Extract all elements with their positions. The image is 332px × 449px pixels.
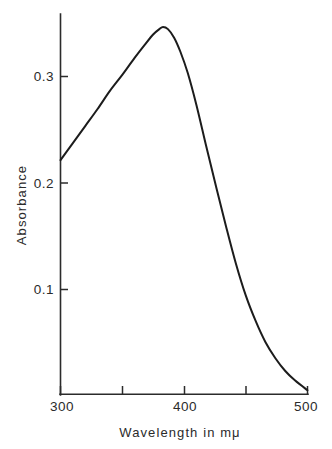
x-tick-label-300: 300	[50, 399, 74, 414]
y-tick-label-0.1: 0.1	[34, 282, 54, 297]
x-tick-label-400: 400	[173, 399, 197, 414]
absorbance-spectrum-figure: 0.3 0.2 0.1 300 400 500 Absorbance Wavel…	[0, 0, 332, 449]
chart-canvas: 0.3 0.2 0.1 300 400 500 Absorbance Wavel…	[0, 0, 332, 449]
x-axis-title: Wavelength in mμ	[119, 425, 240, 440]
y-tick-label-0.3: 0.3	[34, 69, 54, 84]
y-axis-title: Absorbance	[14, 165, 29, 245]
y-tick-label-0.2: 0.2	[34, 176, 54, 191]
chart-background	[0, 0, 332, 449]
x-tick-label-500: 500	[294, 399, 318, 414]
